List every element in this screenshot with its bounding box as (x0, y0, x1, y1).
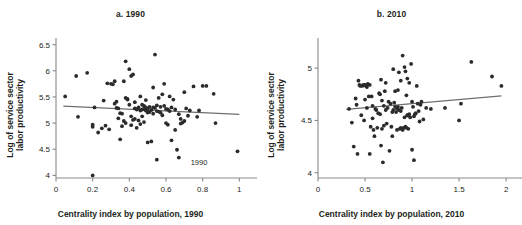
data-point (386, 106, 390, 110)
data-point (142, 120, 146, 124)
data-point (379, 78, 383, 82)
data-point (173, 128, 177, 132)
data-point (160, 92, 164, 96)
panel-b-2010: b. 2010 Centrality index by population, … (261, 0, 522, 225)
data-point (383, 89, 387, 93)
data-point (469, 60, 473, 64)
data-point (133, 100, 137, 104)
data-point (372, 128, 376, 132)
data-point (184, 107, 188, 111)
y-tick-label: 4.5 (39, 145, 51, 154)
data-point (418, 120, 422, 124)
x-tick-label: 2 (504, 185, 509, 194)
data-point (399, 79, 403, 83)
data-point (362, 119, 366, 123)
data-point (63, 95, 67, 99)
x-tick-label: 0.4 (124, 185, 136, 194)
data-point (357, 79, 361, 83)
data-point (373, 134, 377, 138)
data-point (389, 125, 393, 129)
data-point (405, 113, 409, 117)
data-point (417, 109, 421, 113)
data-point (91, 173, 95, 177)
data-point (396, 88, 400, 92)
data-point (409, 62, 413, 66)
data-point (378, 92, 382, 96)
data-point (379, 144, 383, 148)
data-point (406, 127, 410, 131)
data-point (197, 109, 201, 113)
y-tick-label: 5 (46, 119, 51, 128)
data-point (138, 95, 142, 99)
x-tick-label: 0 (54, 185, 59, 194)
data-point (405, 93, 409, 97)
data-point (429, 107, 433, 111)
data-point (159, 105, 163, 109)
data-point (490, 75, 494, 79)
data-point (459, 102, 463, 106)
data-point (129, 123, 133, 127)
data-point (405, 77, 409, 81)
data-point (371, 104, 375, 108)
data-point (365, 106, 369, 110)
data-point (173, 108, 177, 112)
x-tick-label: 0.8 (197, 185, 209, 194)
data-point (131, 73, 135, 77)
x-tick-label: 1.5 (454, 185, 466, 194)
data-point (127, 103, 131, 107)
data-point (177, 156, 181, 160)
data-point (415, 84, 419, 88)
data-point (201, 84, 205, 88)
data-point (116, 116, 120, 120)
data-point (129, 114, 133, 118)
data-point (412, 158, 416, 162)
data-point (127, 67, 131, 71)
data-point (186, 114, 190, 118)
data-point (363, 98, 367, 102)
data-point (359, 113, 363, 117)
data-point (126, 98, 130, 102)
data-point (155, 158, 159, 162)
data-point (170, 138, 174, 142)
y-tick-label: 4 (46, 171, 51, 180)
y-tick-label: 5.5 (39, 93, 51, 102)
data-point (157, 96, 161, 100)
data-point (137, 119, 141, 123)
data-point (407, 81, 411, 85)
data-point (192, 85, 196, 89)
data-point (410, 100, 414, 104)
panel-b-plot: 44.5500.511.52 (261, 0, 522, 225)
data-point (411, 105, 415, 109)
data-point (170, 105, 174, 109)
data-point (355, 103, 359, 107)
data-point (93, 105, 97, 109)
data-point (151, 86, 155, 90)
data-point (403, 65, 407, 69)
data-point (91, 123, 95, 127)
data-point (76, 115, 80, 119)
data-point (457, 119, 461, 123)
plot-annotation: 1990 (191, 158, 208, 167)
data-point (155, 103, 159, 107)
figure-container: a. 1990 Centrality index by population, … (0, 0, 522, 225)
y-tick-label: 4.5 (301, 116, 313, 125)
x-tick-label: 0.5 (359, 185, 371, 194)
panel-a-plot: 44.555.566.500.20.40.60.811990 (0, 0, 261, 225)
data-point (390, 134, 394, 138)
data-point (420, 100, 424, 104)
data-point (364, 83, 368, 87)
data-point (380, 99, 384, 103)
data-point (368, 83, 372, 87)
x-tick-label: 0.2 (87, 185, 99, 194)
data-point (392, 101, 396, 105)
data-point (120, 112, 124, 116)
data-point (124, 59, 128, 63)
data-point (177, 112, 181, 116)
data-point (443, 106, 447, 110)
data-point (382, 104, 386, 108)
data-point (175, 148, 179, 152)
data-point (182, 90, 186, 94)
y-tick-label: 6.5 (39, 41, 51, 50)
data-point (85, 71, 89, 75)
data-point (102, 99, 106, 103)
